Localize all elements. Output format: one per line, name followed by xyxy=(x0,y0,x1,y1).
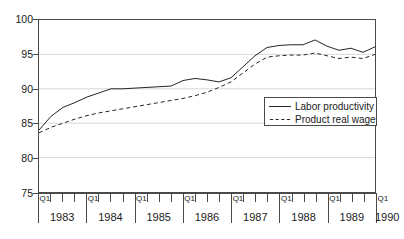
x-year-label-1989: 1989 xyxy=(328,211,376,223)
legend-label-product-real-wage: Product real wage xyxy=(295,114,376,125)
x-tick-quarter xyxy=(267,193,268,202)
legend-item-product-real-wage: Product real wage xyxy=(268,113,373,125)
legend-solid-line-icon xyxy=(268,101,292,111)
x-tick-quarter xyxy=(159,193,160,202)
x-q1-label-1983: Q1 xyxy=(40,194,51,203)
x-year-label-1985: 1985 xyxy=(135,211,183,223)
x-year-label-1986: 1986 xyxy=(183,211,231,223)
x-axis: Q11983Q11984Q11985Q11986Q11987Q11988Q119… xyxy=(38,193,376,239)
x-year-label-1988: 1988 xyxy=(279,211,327,223)
x-tick-quarter xyxy=(207,193,208,202)
x-q1-label-1984: Q1 xyxy=(88,194,99,203)
x-q1-label-1989: Q1 xyxy=(329,194,340,203)
x-tick-quarter xyxy=(195,193,196,202)
x-q1-label-1990: Q1 xyxy=(378,194,389,203)
x-tick-quarter xyxy=(62,193,63,202)
x-tick-quarter xyxy=(219,193,220,202)
y-tick-label-75: 75 xyxy=(3,188,33,199)
x-tick-quarter xyxy=(50,193,51,202)
legend-dashed-line-icon xyxy=(268,114,292,124)
y-tick-label-80: 80 xyxy=(3,153,33,164)
chart-legend: Labor productivity Product real wage xyxy=(264,97,377,126)
x-tick-quarter xyxy=(364,193,365,202)
x-tick-quarter xyxy=(304,193,305,202)
x-year-label-1990: 1990 xyxy=(375,211,404,223)
legend-item-labor-productivity: Labor productivity xyxy=(268,100,373,112)
x-q1-label-1985: Q1 xyxy=(136,194,147,203)
x-tick-quarter xyxy=(352,193,353,202)
y-axis-label-group: 1009590858075 xyxy=(0,0,33,239)
x-tick-quarter xyxy=(255,193,256,202)
y-tick-label-100: 100 xyxy=(3,14,33,25)
x-q1-label-1986: Q1 xyxy=(184,194,195,203)
x-tick-quarter xyxy=(98,193,99,202)
y-tick-label-85: 85 xyxy=(3,118,33,129)
x-tick-quarter xyxy=(110,193,111,202)
x-tick-quarter xyxy=(147,193,148,202)
x-tick-quarter xyxy=(123,193,124,202)
x-tick-quarter xyxy=(316,193,317,202)
x-tick-quarter xyxy=(243,193,244,202)
y-tick-label-95: 95 xyxy=(3,49,33,60)
x-tick-quarter xyxy=(171,193,172,202)
x-year-label-1987: 1987 xyxy=(231,211,279,223)
x-q1-label-1987: Q1 xyxy=(233,194,244,203)
y-tick-label-90: 90 xyxy=(3,84,33,95)
x-year-label-1984: 1984 xyxy=(86,211,134,223)
x-year-label-1983: 1983 xyxy=(38,211,86,223)
x-q1-label-1988: Q1 xyxy=(281,194,292,203)
legend-label-labor-productivity: Labor productivity xyxy=(295,101,374,112)
x-tick-quarter xyxy=(340,193,341,202)
x-tick-quarter xyxy=(74,193,75,202)
x-tick-quarter xyxy=(292,193,293,202)
